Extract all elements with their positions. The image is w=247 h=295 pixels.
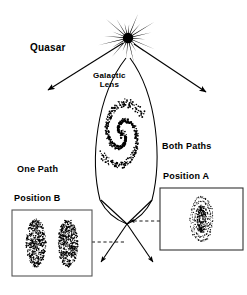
lensed-ray-path-left	[127, 224, 153, 262]
gravitational-lensing-diagram: Quasar Galactic Lens Both Paths One Path…	[0, 0, 247, 295]
one-path-label: One Path	[17, 165, 58, 175]
quasar-label: Quasar	[30, 43, 66, 54]
both-paths-label: Both Paths	[162, 142, 212, 152]
lensed-ray-inbound-left	[101, 200, 127, 224]
galactic-lens-label-line1: Galactic	[93, 71, 126, 80]
quasar-starburst-icon	[98, 14, 155, 64]
position-b-label: Position B	[14, 194, 61, 204]
lensed-ray-path-right	[101, 224, 127, 262]
position-a-panel	[160, 188, 243, 250]
position-b-panel	[12, 210, 92, 276]
galactic-lens-label-line2: Lens	[93, 81, 126, 90]
position-a-label: Position A	[163, 172, 209, 182]
galactic-lens-label: Galactic Lens	[93, 72, 126, 89]
stippled-spiral-galaxy	[99, 98, 145, 169]
lensed-ray-inbound-right	[127, 200, 152, 224]
